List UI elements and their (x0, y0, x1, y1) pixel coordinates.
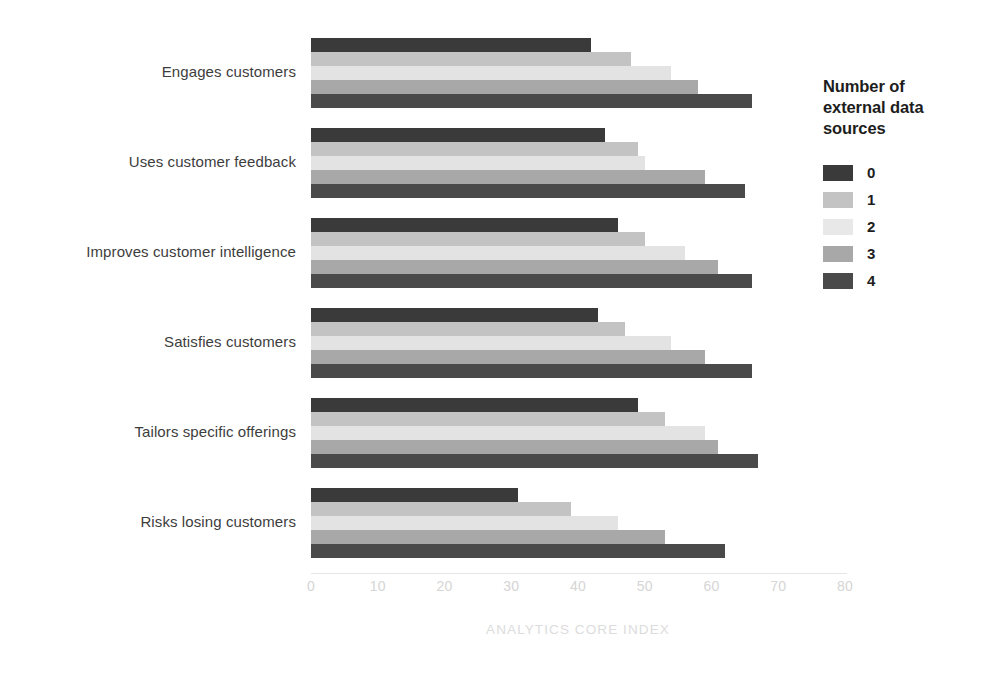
bar (311, 218, 618, 232)
bar (311, 156, 645, 170)
category-label: Satisfies customers (0, 333, 296, 350)
x-tick-label: 60 (703, 578, 719, 594)
x-tick-label: 10 (370, 578, 386, 594)
legend-item[interactable]: 2 (823, 213, 973, 240)
legend-swatch-icon (823, 273, 853, 289)
bar (311, 440, 718, 454)
bar (311, 412, 665, 426)
bar-group (311, 398, 845, 468)
bar (311, 38, 591, 52)
bar (311, 232, 645, 246)
bar (311, 350, 705, 364)
legend-item[interactable]: 0 (823, 159, 973, 186)
bar (311, 80, 698, 94)
x-axis-line (311, 573, 847, 574)
legend-swatch-icon (823, 165, 853, 181)
bar-group (311, 38, 845, 108)
bar (311, 364, 752, 378)
bar (311, 274, 752, 288)
category-axis-labels: Engages customersUses customer feedbackI… (0, 30, 296, 573)
category-label: Uses customer feedback (0, 153, 296, 170)
bar (311, 170, 705, 184)
bar (311, 322, 625, 336)
bar (311, 184, 745, 198)
legend-item[interactable]: 3 (823, 240, 973, 267)
bar-group (311, 128, 845, 198)
legend-swatch-icon (823, 192, 853, 208)
bar (311, 530, 665, 544)
x-tick-label: 80 (837, 578, 853, 594)
bar (311, 398, 638, 412)
bar-group (311, 488, 845, 558)
legend-label: 0 (867, 164, 875, 181)
category-label: Tailors specific offerings (0, 423, 296, 440)
legend-swatch-icon (823, 219, 853, 235)
legend-label: 1 (867, 191, 875, 208)
bar (311, 94, 752, 108)
legend-swatch-icon (823, 246, 853, 262)
category-label: Risks losing customers (0, 513, 296, 530)
bar (311, 260, 718, 274)
bar (311, 544, 725, 558)
bar (311, 454, 758, 468)
category-label: Engages customers (0, 63, 296, 80)
bar (311, 502, 571, 516)
bar-group (311, 308, 845, 378)
bar (311, 336, 671, 350)
bar (311, 128, 605, 142)
bar (311, 246, 685, 260)
chart-legend: Number ofexternal datasources 01234 (823, 76, 973, 294)
x-axis-title: ANALYTICS CORE INDEX (311, 622, 845, 637)
bar (311, 308, 598, 322)
plot-area (311, 30, 845, 573)
x-tick-label: 30 (503, 578, 519, 594)
chart-figure: Engages customersUses customer feedbackI… (0, 0, 983, 677)
bar (311, 52, 631, 66)
legend-label: 2 (867, 218, 875, 235)
bar (311, 516, 618, 530)
legend-items: 01234 (823, 159, 973, 294)
bar-group (311, 218, 845, 288)
x-tick-label: 70 (770, 578, 786, 594)
legend-title: Number ofexternal datasources (823, 76, 973, 139)
x-tick-label: 50 (637, 578, 653, 594)
legend-label: 3 (867, 245, 875, 262)
x-tick-label: 20 (436, 578, 452, 594)
bar (311, 488, 518, 502)
bar (311, 426, 705, 440)
x-tick-label: 40 (570, 578, 586, 594)
legend-label: 4 (867, 272, 875, 289)
legend-item[interactable]: 4 (823, 267, 973, 294)
x-tick-label: 0 (307, 578, 315, 594)
bar (311, 142, 638, 156)
category-label: Improves customer intelligence (0, 243, 296, 260)
bar (311, 66, 671, 80)
legend-item[interactable]: 1 (823, 186, 973, 213)
